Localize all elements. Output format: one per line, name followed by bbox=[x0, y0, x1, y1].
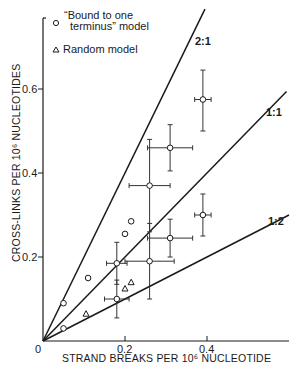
circle-marker bbox=[114, 296, 120, 302]
reference-line-1-to-1 bbox=[43, 92, 287, 341]
legend: “Bound to one terminus” model Random mod… bbox=[53, 9, 149, 55]
y-axis-label: CROSS-LINKS PER 10⁶ NUCLEOTIDES bbox=[10, 64, 22, 262]
circle-marker bbox=[61, 300, 67, 306]
x-tick-label: 0 bbox=[35, 343, 41, 355]
circle-marker bbox=[167, 145, 173, 151]
circle-marker bbox=[200, 97, 206, 103]
circle-marker bbox=[122, 231, 128, 237]
y-tick-label: 0.4 bbox=[22, 167, 37, 179]
circle-marker bbox=[61, 326, 67, 332]
y-tick-label: 0.2 bbox=[22, 251, 37, 263]
triangle-marker bbox=[122, 286, 128, 292]
reference-line-label: 1:2 bbox=[268, 215, 284, 227]
legend-label-bound-line2: terminus” model bbox=[70, 20, 149, 32]
circle-marker bbox=[128, 219, 134, 225]
legend-label-random: Random model bbox=[63, 43, 138, 55]
x-axis-label: STRAND BREAKS PER 10⁶ NUCLEOTIDE bbox=[62, 352, 271, 364]
circle-marker bbox=[167, 235, 173, 241]
triangle-marker bbox=[83, 311, 89, 317]
legend-triangle-icon bbox=[53, 47, 59, 52]
circle-marker bbox=[85, 275, 91, 281]
data-points bbox=[61, 97, 206, 332]
circle-marker bbox=[147, 258, 153, 264]
reference-line-label: 1:1 bbox=[266, 106, 282, 118]
circle-marker bbox=[114, 261, 120, 267]
reference-line-1-to-2 bbox=[43, 215, 289, 341]
scatter-chart: 00.20.40.20.40.6 2:11:11:2 “Bound to one… bbox=[0, 0, 299, 374]
reference-line-label: 2:1 bbox=[195, 35, 211, 47]
circle-marker bbox=[147, 183, 153, 189]
triangle-marker bbox=[128, 279, 134, 285]
circle-marker bbox=[200, 212, 206, 218]
reference-lines: 2:11:11:2 bbox=[43, 9, 289, 341]
legend-circle-icon bbox=[53, 20, 58, 25]
y-tick-label: 0.6 bbox=[22, 83, 37, 95]
